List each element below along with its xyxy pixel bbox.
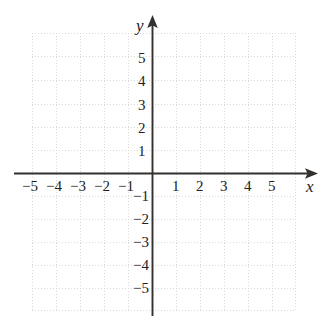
y-tick-label-pos2: 2 [138,121,146,136]
y-tick-label-neg2: −2 [133,212,149,227]
x-tick-label-neg3: −3 [70,179,86,194]
y-tick-label-pos4: 4 [138,74,146,89]
x-tick-label-neg1: −1 [118,179,134,194]
x-tick-label-neg4: −4 [46,179,62,194]
y-tick-label-neg1: −1 [133,189,149,204]
x-tick-label-neg5: −5 [22,179,38,194]
x-tick-label-pos1: 1 [172,179,180,194]
axes [0,0,327,325]
x-axis-label: x [306,178,314,195]
y-tick-label-pos1: 1 [138,144,146,159]
y-tick-label-neg3: −3 [133,235,149,250]
y-tick-label-neg5: −5 [133,281,149,296]
x-tick-label-pos4: 4 [244,179,252,194]
x-tick-label-pos5: 5 [268,179,276,194]
y-tick-label-pos5: 5 [138,51,146,66]
x-tick-label-neg2: −2 [94,179,110,194]
x-tick-label-pos3: 3 [220,179,228,194]
coordinate-plane: y x −5 −4 −3 −2 −1 1 2 3 4 5 5 4 3 2 1 −… [0,0,327,325]
y-tick-label-neg4: −4 [133,258,149,273]
x-tick-label-pos2: 2 [196,179,204,194]
y-axis-label: y [136,17,144,34]
y-tick-label-pos3: 3 [138,98,146,113]
